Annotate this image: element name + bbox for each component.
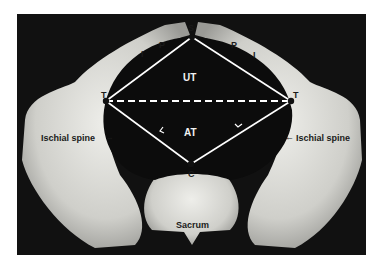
i-right-label: I [253,51,256,60]
ischial-spine-right-label: Ischial spine [296,134,350,143]
p-right-label: P [231,41,237,50]
arrow-left-icon: ← [285,133,294,142]
ut-label: UT [183,73,196,83]
ischial-spine-left-label: Ischial spine [41,134,95,143]
point-t-right-label: T [293,91,299,100]
arrow-right-icon: → [105,133,114,142]
point-c-label: C [188,170,195,179]
sacrum-label: Sacrum [176,221,209,230]
p-left-label: P [159,41,165,50]
point-t-left-label: T [101,91,107,100]
point-s-label: S [188,24,194,33]
pelvis-photo: S T T C UT AT I P P I Ischial spine → ← … [17,14,366,255]
at-label: AT [184,128,197,138]
i-left-label: I [141,50,144,59]
